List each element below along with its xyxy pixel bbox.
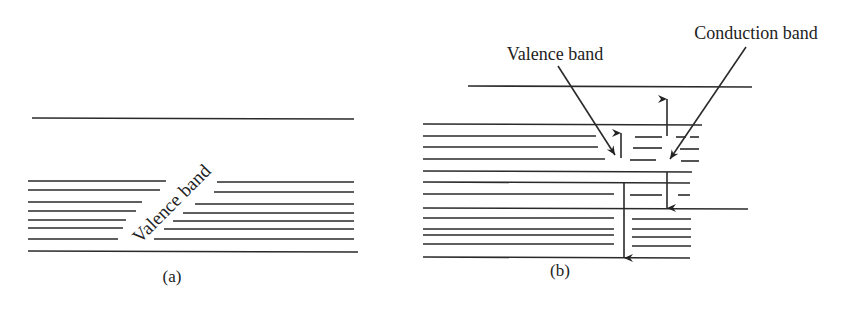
upper-level-b xyxy=(468,86,752,87)
caption-a: (a) xyxy=(163,267,182,286)
upper-energy-level xyxy=(32,118,354,119)
valence-pointer-arrow-icon xyxy=(558,66,615,155)
level-b xyxy=(423,182,690,183)
lower-band-levels xyxy=(423,218,691,258)
conduction-band-label: Conduction band xyxy=(694,23,818,43)
lower-level-b xyxy=(423,208,748,209)
caption-b: (b) xyxy=(550,261,570,280)
energy-band-diagram: Valence band (a) xyxy=(0,0,858,312)
conduction-band-edge xyxy=(423,171,692,172)
conduction-pointer-arrow-icon xyxy=(670,47,746,159)
panel-a: Valence band (a) xyxy=(28,118,358,286)
transition-arrows xyxy=(621,99,667,258)
valence-band-label-b: Valence band xyxy=(507,44,603,64)
partial-levels-middle xyxy=(423,194,690,195)
valence-band-top xyxy=(423,124,702,125)
partial-levels-upper xyxy=(423,136,699,161)
panel-b: Valence band Conduction band (b) xyxy=(423,23,818,280)
